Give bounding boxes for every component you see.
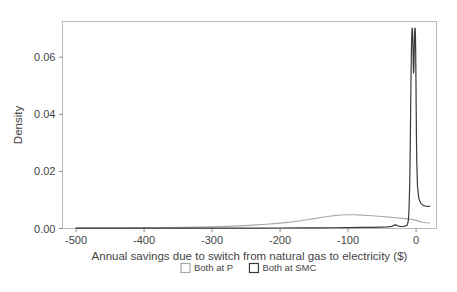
y-axis-title: Density bbox=[12, 106, 24, 145]
y-tick-label: 0.06 bbox=[34, 51, 55, 63]
y-tick-label: 0.04 bbox=[34, 108, 55, 120]
x-axis-title: Annual savings due to switch from natura… bbox=[92, 250, 408, 262]
y-tick-label: 0.00 bbox=[34, 223, 55, 235]
y-tick-label: 0.02 bbox=[34, 165, 55, 177]
plot-frame bbox=[63, 22, 437, 229]
x-tick-label: -500 bbox=[65, 234, 87, 246]
legend-label: Both at P bbox=[194, 262, 233, 273]
x-tick-label: -400 bbox=[133, 234, 155, 246]
x-tick-label: -200 bbox=[269, 234, 291, 246]
x-tick-label: -300 bbox=[201, 234, 223, 246]
legend-item[interactable]: Both at P bbox=[181, 262, 233, 273]
chart-svg: 0.000.020.040.06-500-400-300-200-1000Ann… bbox=[0, 0, 457, 292]
legend-swatch bbox=[181, 264, 190, 273]
legend-swatch bbox=[249, 264, 258, 273]
x-tick-label: 0 bbox=[413, 234, 419, 246]
density-plot-figure: 0.000.020.040.06-500-400-300-200-1000Ann… bbox=[0, 0, 457, 292]
legend-label: Both at SMC bbox=[262, 262, 316, 273]
x-tick-label: -100 bbox=[337, 234, 359, 246]
